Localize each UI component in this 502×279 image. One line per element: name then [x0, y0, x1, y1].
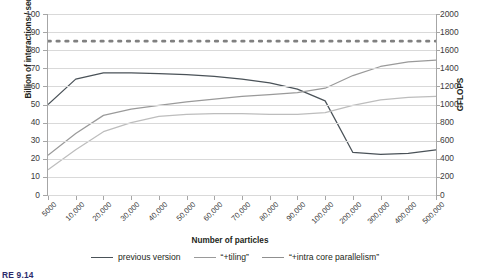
- x-axis-tick-mark: [187, 196, 188, 200]
- x-axis-tick-mark: [159, 196, 160, 200]
- x-axis-tick-mark: [242, 196, 243, 200]
- y-axis-right-tick-label: 1400: [440, 63, 480, 73]
- chart-figure: Billion of interactions / second GFLOPS …: [0, 0, 502, 279]
- y-axis-right-tick-label: 2000: [440, 9, 480, 19]
- y-axis-right-tick-label: 1600: [440, 45, 480, 55]
- y-axis-right-tick-label: 600: [440, 135, 480, 145]
- x-axis-tick-mark: [436, 196, 437, 200]
- gridline: [48, 50, 436, 51]
- x-axis-tick-mark: [297, 196, 298, 200]
- gridline: [48, 177, 436, 178]
- legend-label: “+tiling”: [221, 252, 249, 262]
- legend-label: previous version: [118, 252, 181, 262]
- chart-legend: previous version“+tiling”“+intra core pa…: [0, 252, 470, 262]
- x-axis-tick-mark: [270, 196, 271, 200]
- plot-area: [47, 14, 437, 196]
- y-axis-left-tick-label: 0: [0, 190, 40, 200]
- y-axis-left-tick-label: 40: [0, 117, 40, 127]
- y-axis-left-tick-label: 70: [0, 63, 40, 73]
- legend-swatch: [194, 257, 216, 258]
- y-axis-left-tick-label: 90: [0, 27, 40, 37]
- gridline: [48, 105, 436, 106]
- gridline: [48, 86, 436, 87]
- x-axis-tick-mark: [381, 196, 382, 200]
- y-axis-right-tick-label: 1000: [440, 99, 480, 109]
- y-axis-right-tick-label: 200: [440, 171, 480, 181]
- x-axis-tick-mark: [408, 196, 409, 200]
- y-axis-left-tick-label: 20: [0, 153, 40, 163]
- gridline: [48, 14, 436, 15]
- x-axis-tick-mark: [76, 196, 77, 200]
- y-axis-right-tick-label: 800: [440, 117, 480, 127]
- y-axis-right-tick-label: 1800: [440, 27, 480, 37]
- y-axis-right-tick-label: 0: [440, 190, 480, 200]
- legend-label: “+intra core parallelism”: [289, 252, 379, 262]
- legend-swatch: [91, 257, 113, 258]
- gridline: [48, 32, 436, 33]
- figure-caption: RE 9.14: [2, 270, 34, 279]
- y-axis-left-tick-label: 80: [0, 45, 40, 55]
- x-axis-tick-mark: [103, 196, 104, 200]
- y-axis-left-tick-label: 10: [0, 171, 40, 181]
- y-axis-right-tick-label: 1200: [440, 81, 480, 91]
- x-axis-tick-mark: [214, 196, 215, 200]
- gridline: [48, 159, 436, 160]
- y-axis-left-tick-label: 60: [0, 81, 40, 91]
- y-axis-right-tick-label: 400: [440, 153, 480, 163]
- x-axis-tick-mark: [353, 196, 354, 200]
- y-axis-left-tick-label: 30: [0, 135, 40, 145]
- gridline: [48, 141, 436, 142]
- legend-item[interactable]: “+tiling”: [194, 252, 249, 262]
- x-axis-tick-mark: [48, 196, 49, 200]
- legend-swatch: [262, 257, 284, 258]
- legend-item[interactable]: previous version: [91, 252, 181, 262]
- y-axis-left-tick-label: 50: [0, 99, 40, 109]
- gridline: [48, 195, 436, 196]
- gridline: [48, 123, 436, 124]
- x-axis-tick-mark: [131, 196, 132, 200]
- gridline: [48, 68, 436, 69]
- x-axis-tick-mark: [325, 196, 326, 200]
- y-axis-left-tick-label: 100: [0, 9, 40, 19]
- legend-item[interactable]: “+intra core parallelism”: [262, 252, 379, 262]
